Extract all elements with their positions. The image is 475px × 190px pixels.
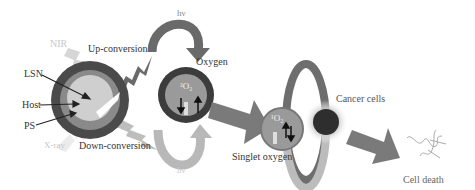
process-arrow-1-icon [208, 100, 270, 144]
oxygen-label: Oxygen [196, 57, 228, 67]
hv-bottom-label: hν [177, 166, 186, 175]
hv-top-label: hν [177, 9, 186, 18]
up-conversion-label: Up-conversion [88, 44, 147, 54]
dead-cell-icon [407, 130, 446, 158]
ps-label: PS [24, 121, 35, 131]
nir-label: NIR [50, 39, 67, 49]
xray-label: X-ray [44, 141, 65, 150]
lsn-label: LSN [24, 69, 43, 79]
triplet-symbol: ³O₂ [180, 82, 192, 91]
nanoparticle [51, 61, 129, 139]
down-conversion-label: Down-conversion [79, 141, 151, 151]
process-arrow-2-icon [346, 128, 400, 164]
hv-bottom-curved-arrow-icon [158, 124, 212, 165]
singlet-symbol: ¹O₂ [271, 114, 283, 123]
singlet-oxygen-label: Singlet oxygen [232, 152, 292, 162]
cell-death-label: Cell death [403, 175, 444, 185]
triplet-oxygen-circle [158, 67, 214, 123]
cancer-cells-label: Cancer cells [336, 94, 385, 104]
host-label: Host [22, 100, 41, 110]
cancer-cell-icon [304, 100, 348, 144]
